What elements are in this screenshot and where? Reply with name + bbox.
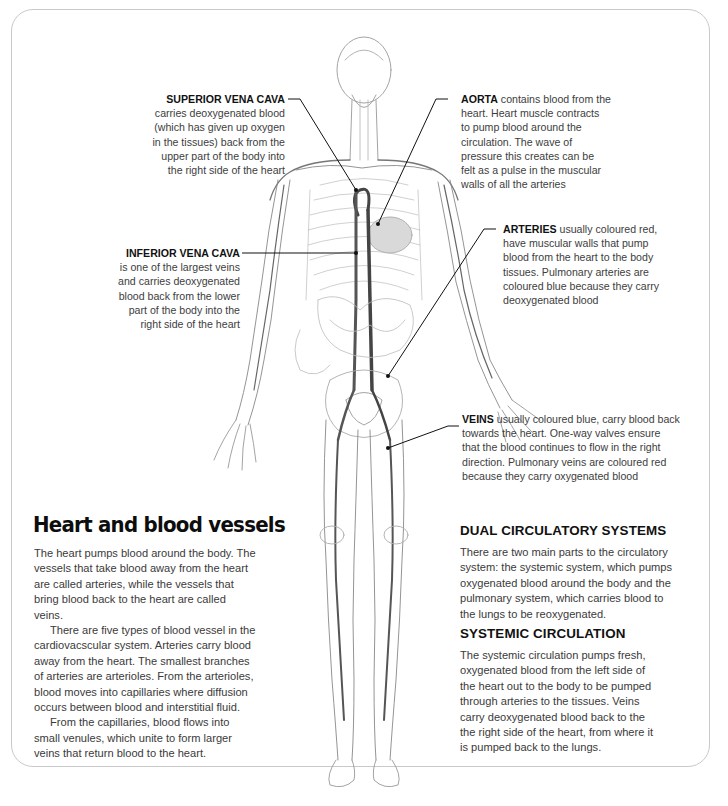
callout-line: felt as a pulse in the muscular	[461, 164, 601, 176]
intro-paragraph: There are five types of blood vessel in …	[34, 623, 256, 715]
callout-term: AORTA	[461, 93, 498, 105]
section-text-dual-circulatory: There are two main parts to the circulat…	[460, 545, 676, 622]
callout-line: and carries deoxygenated	[118, 275, 240, 287]
callout-line: part of the body into the	[129, 304, 240, 316]
section-heading-dual-circulatory: DUAL CIRCULATORY SYSTEMS	[460, 523, 666, 538]
section-heading-systemic-circulation: SYSTEMIC CIRCULATION	[460, 626, 625, 641]
callout-line: circulation. The wave of	[461, 136, 572, 148]
callout-line: carries deoxygenated blood	[155, 107, 285, 119]
section-text-systemic-circulation: The systemic circulation pumps fresh, ox…	[460, 648, 660, 756]
callout-inferior-vena-cava: INFERIOR VENA CAVA is one of the largest…	[100, 246, 240, 331]
intro-paragraph: From the capillaries, blood flows into s…	[34, 715, 256, 761]
callout-line: in the tissues) back from the	[153, 136, 285, 148]
callout-line: upper part of the body into	[161, 150, 285, 162]
callout-line: right side of the heart	[140, 318, 240, 330]
callout-line: usually coloured red,	[560, 223, 658, 235]
callout-term: SUPERIOR VENA CAVA	[166, 93, 285, 105]
callout-line: (which has given up oxygen	[154, 121, 285, 133]
page-title: Heart and blood vessels	[33, 512, 285, 537]
callout-line: heart. Heart muscle contracts	[461, 107, 599, 119]
callout-line: because they carry oxygenated blood	[462, 470, 638, 482]
callout-line: tissues. Pulmonary arteries are	[503, 266, 649, 278]
section-paragraph: There are two main parts to the circulat…	[460, 545, 676, 622]
callout-line: to pump blood around the	[461, 121, 582, 133]
callout-line: coloured blue because they carry	[503, 280, 659, 292]
intro-text: The heart pumps blood around the body. T…	[34, 546, 256, 762]
callout-superior-vena-cava: SUPERIOR VENA CAVA carries deoxygenated …	[130, 92, 285, 177]
callout-term: ARTERIES	[503, 223, 557, 235]
callout-term: VEINS	[462, 413, 494, 425]
callout-line: blood back from the lower	[119, 290, 240, 302]
callout-term: INFERIOR VENA CAVA	[126, 247, 240, 259]
callout-line: walls of all the arteries	[461, 178, 566, 190]
callout-line: direction. Pulmonary veins are coloured …	[462, 456, 666, 468]
intro-paragraph: The heart pumps blood around the body. T…	[34, 546, 256, 623]
callout-line: the right side of the heart	[168, 164, 285, 176]
callout-line: blood from the heart to the body	[503, 251, 653, 263]
callout-line: is one of the largest veins	[120, 261, 240, 273]
section-paragraph: The systemic circulation pumps fresh, ox…	[460, 648, 660, 756]
callout-line: pressure this creates can be	[461, 150, 594, 162]
callout-line: towards the heart. One-way valves ensure	[462, 427, 660, 439]
callout-line: contains blood from the	[501, 93, 611, 105]
callout-line: usually coloured blue, carry blood back	[497, 413, 680, 425]
callout-arteries: ARTERIES usually coloured red, have musc…	[503, 222, 683, 307]
callout-line: that the blood continues to flow in the …	[462, 441, 660, 453]
callout-aorta: AORTA contains blood from the heart. Hea…	[461, 92, 631, 191]
callout-line: deoxygenated blood	[503, 294, 598, 306]
callout-line: have muscular walls that pump	[503, 237, 648, 249]
callout-veins: VEINS usually coloured blue, carry blood…	[462, 412, 692, 483]
